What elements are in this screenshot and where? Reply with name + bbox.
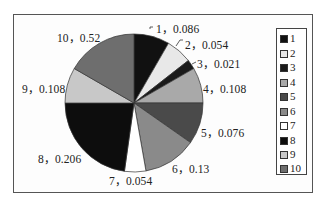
data-label-1: 1，0.086: [156, 20, 199, 36]
legend-swatch: [280, 137, 288, 145]
legend-swatch: [280, 79, 288, 87]
legend-item-2: 2: [280, 47, 296, 60]
legend-swatch: [280, 151, 288, 159]
data-label-5: 5，0.076: [201, 124, 244, 140]
data-label-2: 2，0.054: [185, 36, 228, 52]
data-label-3: 3，0.021: [197, 55, 240, 71]
legend-item-7: 7: [280, 119, 296, 132]
leader-line-1: [150, 27, 153, 29]
legend-item-6: 6: [280, 105, 296, 118]
legend-swatch: [280, 108, 288, 116]
legend-item-10: 10: [280, 162, 301, 175]
legend-item-8: 8: [280, 134, 296, 147]
leader-line-2: [176, 40, 183, 46]
leader-line-3: [192, 62, 196, 64]
legend-swatch: [280, 122, 288, 130]
legend-swatch: [280, 35, 288, 43]
legend-item-4: 4: [280, 76, 296, 89]
legend-item-9: 9: [280, 148, 296, 161]
legend-item-5: 5: [280, 90, 296, 103]
legend-item-3: 3: [280, 61, 296, 74]
chart-legend: 1 2 3 4 5 6 7 8 9 10: [276, 28, 307, 175]
data-label-10: 10，0.52: [57, 29, 100, 45]
legend-swatch: [280, 93, 288, 101]
legend-swatch: [280, 50, 288, 58]
data-label-7: 7，0.054: [109, 172, 152, 188]
legend-item-1: 1: [280, 32, 296, 45]
data-label-6: 6，0.13: [172, 160, 209, 176]
pie-slices: [65, 34, 203, 172]
data-label-9: 9，0.108: [22, 80, 65, 96]
data-label-8: 8，0.206: [38, 150, 81, 166]
legend-swatch: [280, 64, 288, 72]
legend-swatch: [280, 165, 288, 173]
data-label-4: 4，0.108: [203, 80, 246, 96]
